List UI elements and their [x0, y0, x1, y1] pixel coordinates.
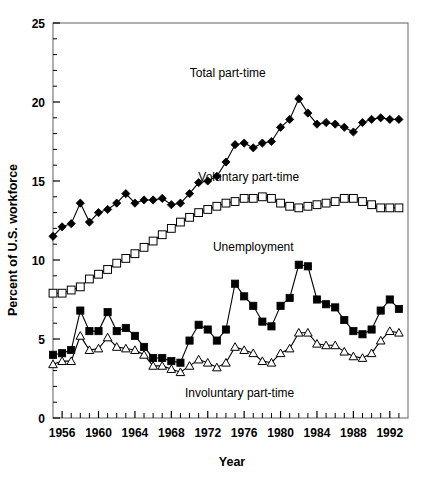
- data-point: [386, 296, 393, 303]
- data-point: [158, 231, 166, 239]
- data-point: [195, 209, 203, 217]
- x-tick-label: 1976: [231, 426, 258, 440]
- data-point: [167, 225, 175, 233]
- x-tick-label: 1992: [376, 426, 403, 440]
- x-tick-label: 1972: [194, 426, 221, 440]
- data-point: [131, 250, 139, 258]
- x-tick-label: 1960: [85, 426, 112, 440]
- data-point: [368, 326, 375, 333]
- x-tick-label: 1956: [49, 426, 76, 440]
- data-point: [86, 275, 94, 283]
- x-tick-label: 1984: [304, 426, 331, 440]
- data-point: [168, 358, 175, 365]
- y-tick-label: 15: [32, 175, 46, 189]
- data-point: [268, 323, 275, 330]
- data-point: [231, 280, 238, 287]
- data-point: [241, 293, 248, 300]
- data-point: [177, 218, 185, 226]
- data-point: [340, 194, 348, 202]
- data-point: [359, 331, 366, 338]
- data-point: [140, 343, 147, 350]
- data-point: [331, 198, 339, 206]
- data-point: [113, 259, 121, 267]
- data-point: [113, 328, 120, 335]
- data-point: [204, 326, 211, 333]
- data-point: [195, 321, 202, 328]
- series-label-total-part-time: Total part-time: [190, 66, 266, 80]
- data-point: [213, 202, 221, 210]
- data-point: [131, 332, 138, 339]
- data-point: [277, 199, 285, 207]
- series-label-involuntary-part-time: Involuntary part-time: [185, 386, 295, 400]
- data-point: [332, 304, 339, 311]
- data-point: [77, 307, 84, 314]
- y-axis-title: Percent of U.S. workforce: [6, 164, 20, 316]
- data-point: [104, 309, 111, 316]
- data-point: [341, 316, 348, 323]
- data-point: [349, 194, 357, 202]
- chart-container: 0510152025 19561960196419681972197619801…: [0, 0, 424, 487]
- data-point: [240, 194, 248, 202]
- data-point: [95, 270, 103, 278]
- data-point: [395, 204, 403, 212]
- data-point: [277, 302, 284, 309]
- data-point: [67, 286, 75, 294]
- x-tick-label: 1988: [340, 426, 367, 440]
- y-tick-label: 25: [32, 17, 46, 31]
- data-point: [313, 201, 321, 209]
- data-point: [259, 318, 266, 325]
- data-point: [222, 326, 229, 333]
- data-point: [150, 354, 157, 361]
- data-point: [258, 193, 266, 201]
- data-point: [204, 206, 212, 214]
- data-point: [49, 289, 57, 297]
- y-tick-label: 0: [38, 412, 45, 426]
- data-point: [250, 302, 257, 309]
- data-point: [186, 213, 194, 221]
- data-point: [149, 237, 157, 245]
- data-point: [295, 204, 303, 212]
- data-point: [249, 194, 257, 202]
- data-point: [59, 350, 66, 357]
- y-tick-label: 10: [32, 254, 46, 268]
- data-point: [213, 337, 220, 344]
- data-point: [395, 305, 402, 312]
- data-point: [140, 243, 148, 251]
- data-point: [304, 263, 311, 270]
- data-point: [268, 194, 276, 202]
- data-point: [86, 328, 93, 335]
- data-point: [304, 202, 312, 210]
- data-point: [313, 296, 320, 303]
- y-tick-label: 5: [38, 333, 45, 347]
- data-point: [122, 255, 130, 263]
- data-point: [322, 301, 329, 308]
- line-chart: 0510152025 19561960196419681972197619801…: [0, 0, 424, 487]
- x-tick-label: 1964: [122, 426, 149, 440]
- data-point: [295, 261, 302, 268]
- data-point: [377, 307, 384, 314]
- data-point: [350, 328, 357, 335]
- data-point: [159, 354, 166, 361]
- data-point: [222, 199, 230, 207]
- data-point: [377, 204, 385, 212]
- data-point: [58, 289, 66, 297]
- data-point: [186, 337, 193, 344]
- data-point: [286, 202, 294, 210]
- data-point: [122, 324, 129, 331]
- series-label-voluntary-part-time: Voluntary part-time: [198, 170, 299, 184]
- data-point: [104, 266, 112, 274]
- y-tick-label: 20: [32, 96, 46, 110]
- data-point: [95, 328, 102, 335]
- series-label-unemployment: Unemployment: [213, 240, 294, 254]
- data-point: [386, 204, 394, 212]
- x-axis-title: Year: [219, 455, 246, 469]
- data-point: [177, 359, 184, 366]
- data-point: [368, 201, 376, 209]
- data-point: [286, 294, 293, 301]
- data-point: [359, 198, 367, 206]
- data-point: [322, 199, 330, 207]
- x-tick-label: 1980: [267, 426, 294, 440]
- data-point: [231, 198, 239, 206]
- data-point: [76, 283, 84, 291]
- x-tick-label: 1968: [158, 426, 185, 440]
